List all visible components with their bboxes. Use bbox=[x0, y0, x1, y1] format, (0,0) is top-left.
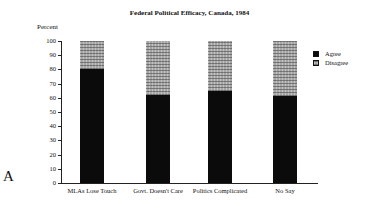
bar-segment-agree bbox=[273, 96, 297, 183]
x-axis-line bbox=[61, 183, 318, 184]
y-axis-label: Percent bbox=[37, 23, 58, 31]
y-tick-label: 80 bbox=[36, 65, 56, 72]
y-axis-line bbox=[61, 41, 62, 184]
chart-title: Federal Political Efficacy, Canada, 1984 bbox=[0, 9, 379, 17]
y-tick bbox=[58, 84, 61, 85]
panel-letter: A bbox=[3, 168, 14, 185]
y-tick bbox=[58, 98, 61, 99]
x-category-label: No Say bbox=[245, 187, 325, 194]
y-tick-label: 90 bbox=[36, 51, 56, 58]
y-tick bbox=[58, 183, 61, 184]
y-tick-label: 20 bbox=[36, 151, 56, 158]
y-tick bbox=[58, 69, 61, 70]
bar-segment-agree bbox=[208, 91, 232, 183]
y-tick bbox=[58, 169, 61, 170]
bar-segment-disagree bbox=[273, 41, 297, 96]
y-tick-label: 70 bbox=[36, 80, 56, 87]
bar-segment-disagree bbox=[146, 41, 170, 95]
bar-segment-agree bbox=[146, 95, 170, 183]
y-tick-label: 30 bbox=[36, 136, 56, 143]
legend-label-agree: Agree bbox=[325, 50, 341, 57]
y-tick-label: 60 bbox=[36, 94, 56, 101]
y-tick bbox=[58, 112, 61, 113]
y-tick bbox=[58, 155, 61, 156]
y-tick bbox=[58, 41, 61, 42]
legend-label-disagree: Disagree bbox=[325, 59, 348, 66]
bar-segment-disagree bbox=[80, 41, 104, 69]
y-tick-label: 50 bbox=[36, 108, 56, 115]
legend-swatch-agree bbox=[313, 51, 319, 57]
y-tick-label: 100 bbox=[36, 37, 56, 44]
y-tick-label: 40 bbox=[36, 122, 56, 129]
bar-segment-disagree bbox=[208, 41, 232, 91]
y-tick-label: 10 bbox=[36, 165, 56, 172]
y-tick bbox=[58, 55, 61, 56]
y-tick bbox=[58, 140, 61, 141]
y-tick bbox=[58, 126, 61, 127]
bar-segment-agree bbox=[80, 69, 104, 183]
legend-swatch-disagree bbox=[313, 60, 319, 66]
y-tick-label: 0 bbox=[36, 179, 56, 186]
